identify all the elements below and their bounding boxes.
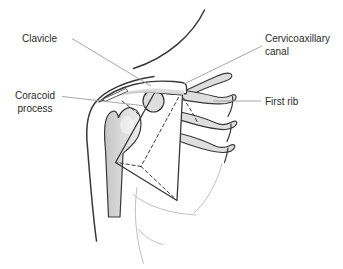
label-coracoid-line2: process (6, 102, 64, 115)
anatomy-figure: Clavicle Coracoid process Cervicoaxillar… (0, 0, 343, 269)
chest-contour-3 (139, 230, 164, 245)
neck-outline (134, 10, 205, 69)
label-first-rib-text: First rib (265, 96, 298, 107)
label-clavicle: Clavicle (22, 32, 57, 45)
label-coracoid-line1: Coracoid (6, 89, 64, 102)
label-coracoid-process: Coracoid process (6, 89, 64, 115)
third-rib-bone (180, 134, 235, 153)
label-cervicoaxillary-canal: Cervicoaxillary canal (265, 32, 330, 58)
humeral-head-highlight (120, 116, 134, 134)
label-first-rib: First rib (265, 95, 298, 108)
second-rib-bone (178, 112, 237, 130)
label-cervicoaxillary-line1: Cervicoaxillary (265, 32, 330, 45)
chest-contour-2 (133, 195, 196, 216)
label-cervicoaxillary-line2: canal (265, 45, 330, 58)
chest-contour-4 (194, 164, 222, 214)
label-clavicle-text: Clavicle (22, 33, 57, 44)
leader-clavicle (72, 39, 151, 87)
